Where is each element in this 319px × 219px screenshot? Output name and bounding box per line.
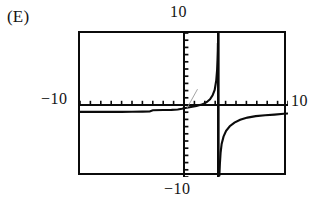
graph-plot-svg — [80, 33, 288, 177]
graph-plot-frame — [78, 31, 286, 175]
curve-branch-left — [80, 108, 184, 112]
axis-label-left: −10 — [41, 91, 68, 107]
curve-branch-right — [219, 114, 288, 177]
axes-layer — [80, 33, 288, 177]
axis-label-bottom: −10 — [164, 181, 191, 197]
axis-label-top: 10 — [170, 4, 187, 20]
choice-label: (E) — [7, 8, 29, 25]
figure-canvas: (E) 10 −10 10 −10 — [0, 0, 319, 219]
curve-branch-middle — [184, 43, 218, 108]
axis-label-right: 10 — [291, 93, 308, 109]
